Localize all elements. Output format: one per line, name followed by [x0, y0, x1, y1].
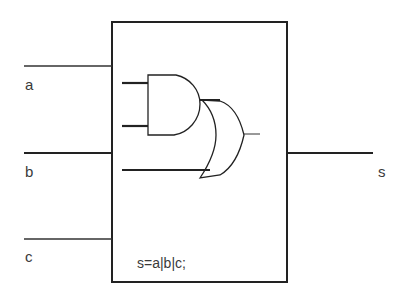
input-label-b: b: [25, 163, 33, 180]
output-label-s: s: [378, 163, 386, 180]
and-gate: [148, 75, 200, 135]
or-gate: [200, 100, 244, 178]
logic-circuit-diagram: a b c s s=a|b|c;: [0, 0, 409, 295]
module-expression: s=a|b|c;: [137, 255, 186, 271]
module-box: [112, 22, 287, 282]
input-label-a: a: [25, 76, 34, 93]
input-label-c: c: [25, 248, 33, 265]
